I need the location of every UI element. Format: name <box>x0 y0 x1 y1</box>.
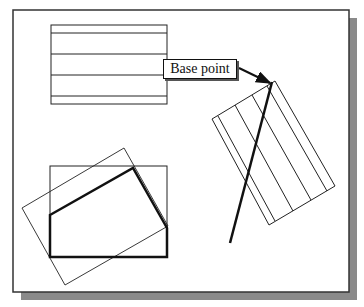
drawing-frame <box>13 10 349 292</box>
cad-diagram <box>0 0 364 307</box>
frame-shadow <box>349 18 357 300</box>
base-point-label: Base point <box>163 59 237 79</box>
base-point-label-text: Base point <box>170 61 230 77</box>
frame-shadow <box>21 292 357 300</box>
